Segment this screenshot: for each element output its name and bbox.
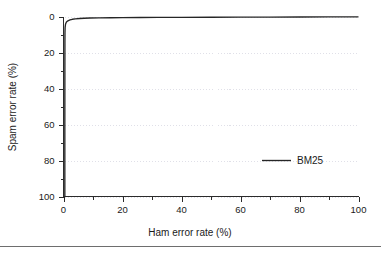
roc-curve-chart: 020406080100 020406080100 Ham error rate…: [0, 0, 381, 257]
y-tick-label-100: 100: [39, 191, 55, 202]
x-tick-label-0: 0: [61, 204, 66, 215]
x-tick-label-20: 20: [117, 204, 128, 215]
legend-label-bm25: BM25: [297, 155, 324, 166]
x-tick-label-60: 60: [235, 204, 246, 215]
y-axis-title: Spam error rate (%): [7, 63, 18, 151]
y-tick-label-40: 40: [44, 83, 55, 94]
y-tick-label-0: 0: [49, 11, 54, 22]
x-axis-title: Ham error rate (%): [148, 227, 231, 238]
y-tick-label-20: 20: [44, 47, 55, 58]
chart-background: [0, 0, 381, 257]
figure-container: 020406080100 020406080100 Ham error rate…: [0, 0, 381, 257]
y-tick-label-80: 80: [44, 155, 55, 166]
x-tick-label-100: 100: [351, 204, 367, 215]
y-tick-label-60: 60: [44, 119, 55, 130]
x-tick-label-80: 80: [294, 204, 305, 215]
x-tick-label-40: 40: [176, 204, 187, 215]
